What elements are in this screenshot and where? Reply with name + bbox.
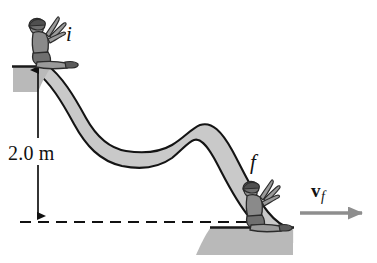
slide-diagram-svg <box>0 0 377 263</box>
label-initial-point: i <box>66 24 72 45</box>
label-height-dimension: 2.0 m <box>8 143 55 163</box>
velocity-subscript: f <box>321 189 325 204</box>
velocity-symbol: v <box>311 180 321 201</box>
child-figure-final <box>243 180 292 232</box>
physics-diagram-canvas: i f 2.0 m vf <box>0 0 377 263</box>
label-velocity-vector: vf <box>311 181 325 204</box>
label-final-point: f <box>250 152 256 173</box>
